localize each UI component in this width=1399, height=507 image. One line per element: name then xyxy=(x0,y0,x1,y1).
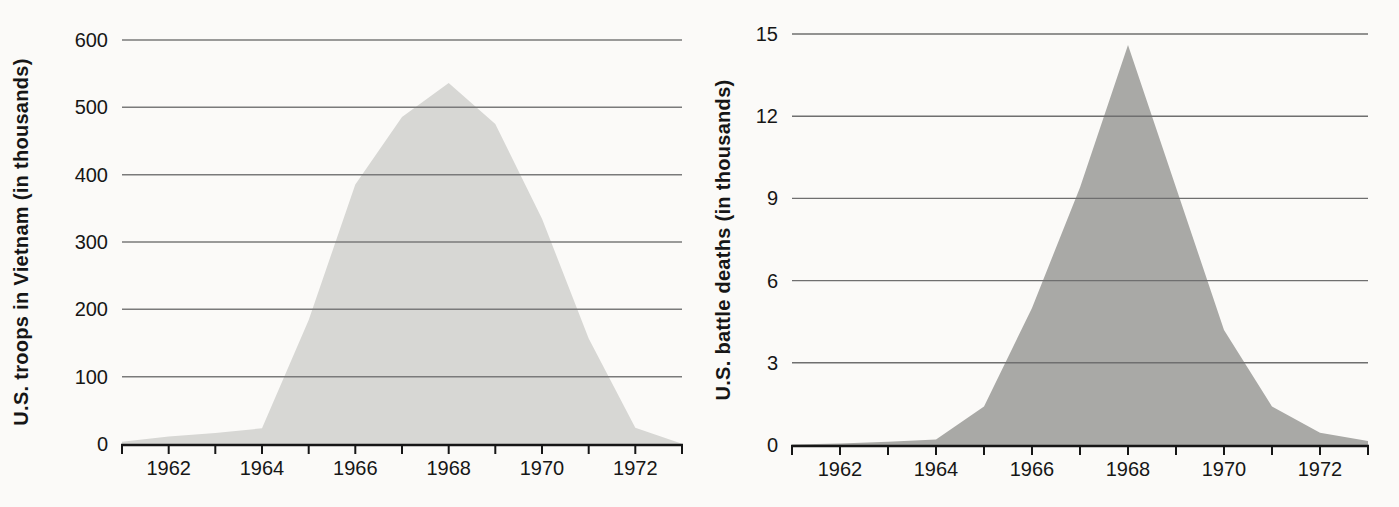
battle-deaths-y-axis-title: U.S. battle deaths (in thousands) xyxy=(712,79,734,400)
x-tick-label-1972: 1972 xyxy=(613,457,658,479)
y-tick-label-100: 100 xyxy=(75,366,108,388)
x-tick-label-1970: 1970 xyxy=(520,457,565,479)
y-tick-label-0: 0 xyxy=(767,434,778,456)
y-tick-label-0: 0 xyxy=(97,433,108,455)
y-tick-label-12: 12 xyxy=(756,105,778,127)
x-tick-label-1964: 1964 xyxy=(914,458,959,480)
troops-chart: U.S. troops in Vietnam (in thousands) 01… xyxy=(0,0,700,507)
y-tick-label-200: 200 xyxy=(75,298,108,320)
x-tick-label-1964: 1964 xyxy=(240,457,285,479)
battle-deaths-chart: U.S. battle deaths (in thousands) 036912… xyxy=(700,0,1399,507)
x-tick-label-1972: 1972 xyxy=(1298,458,1343,480)
x-tick-label-1968: 1968 xyxy=(1106,458,1151,480)
y-tick-label-9: 9 xyxy=(767,187,778,209)
x-tick-label-1970: 1970 xyxy=(1202,458,1247,480)
troops-chart-canvas: U.S. troops in Vietnam (in thousands) 01… xyxy=(0,0,700,507)
x-tick-label-1966: 1966 xyxy=(333,457,378,479)
y-tick-label-400: 400 xyxy=(75,164,108,186)
y-tick-label-15: 15 xyxy=(756,23,778,45)
troops-area xyxy=(122,83,682,444)
y-tick-label-600: 600 xyxy=(75,29,108,51)
battle-deaths-chart-canvas: U.S. battle deaths (in thousands) 036912… xyxy=(700,0,1399,507)
troops-y-axis-title: U.S. troops in Vietnam (in thousands) xyxy=(10,58,32,425)
y-tick-label-3: 3 xyxy=(767,352,778,374)
y-tick-label-6: 6 xyxy=(767,270,778,292)
x-tick-label-1966: 1966 xyxy=(1010,458,1055,480)
battle-deaths-area xyxy=(792,45,1368,445)
x-tick-label-1968: 1968 xyxy=(426,457,471,479)
y-tick-label-500: 500 xyxy=(75,96,108,118)
y-tick-label-300: 300 xyxy=(75,231,108,253)
vietnam-war-charts-figure: U.S. troops in Vietnam (in thousands) 01… xyxy=(0,0,1399,507)
x-tick-label-1962: 1962 xyxy=(818,458,863,480)
x-tick-label-1962: 1962 xyxy=(146,457,191,479)
